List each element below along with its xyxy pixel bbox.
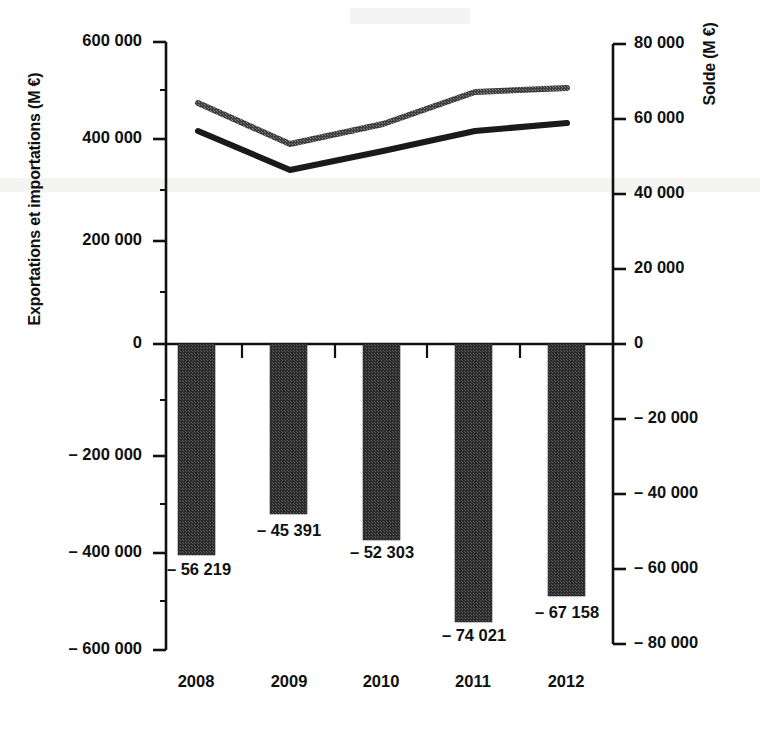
y-tick-label-left: 600 000 [22,31,142,50]
y-tick-label-right: 0 [634,333,754,352]
y-tick-label-right: 20 000 [634,258,754,277]
bar-value-label: – 52 303 [327,543,437,562]
bar-2010 [363,344,400,540]
y-tick-label-right: 60 000 [634,108,754,127]
bar-value-label: – 45 391 [234,521,344,540]
y-tick-label-right: 40 000 [634,183,754,202]
y-tick-label-left: 0 [22,333,142,352]
y-tick-label-right: – 80 000 [634,633,754,652]
bar-value-label: – 74 021 [419,626,529,645]
y-tick-label-left: – 400 000 [22,542,142,561]
x-axis-label-2011: 2011 [428,672,518,691]
chart-figure: Exportations et importations (M €) Solde… [0,0,760,729]
y-tick-label-left: 200 000 [22,230,142,249]
right-axis-ticks [613,44,626,644]
bar-2012 [548,344,585,596]
bar-2011 [455,344,492,622]
y-tick-label-right: – 20 000 [634,408,754,427]
y-tick-label-left: – 600 000 [22,639,142,658]
x-axis-label-2010: 2010 [336,672,426,691]
x-axis-label-2008: 2008 [151,672,241,691]
bar-2009 [270,344,307,514]
left-axis-ticks [153,42,166,650]
line-series-importations-outline [198,88,567,144]
y-tick-label-right: – 40 000 [634,483,754,502]
y-tick-label-left: 400 000 [22,128,142,147]
x-axis-label-2012: 2012 [521,672,611,691]
y-tick-label-left: – 200 000 [22,445,142,464]
bar-value-label: – 56 219 [144,560,254,579]
line-series-importations [198,88,567,144]
y-tick-label-right: 80 000 [634,33,754,52]
bar-value-label: – 67 158 [512,603,622,622]
bar-series-solde [178,344,585,622]
y-tick-label-right: – 60 000 [634,558,754,577]
bar-2008 [178,344,215,555]
x-axis-label-2009: 2009 [244,672,334,691]
